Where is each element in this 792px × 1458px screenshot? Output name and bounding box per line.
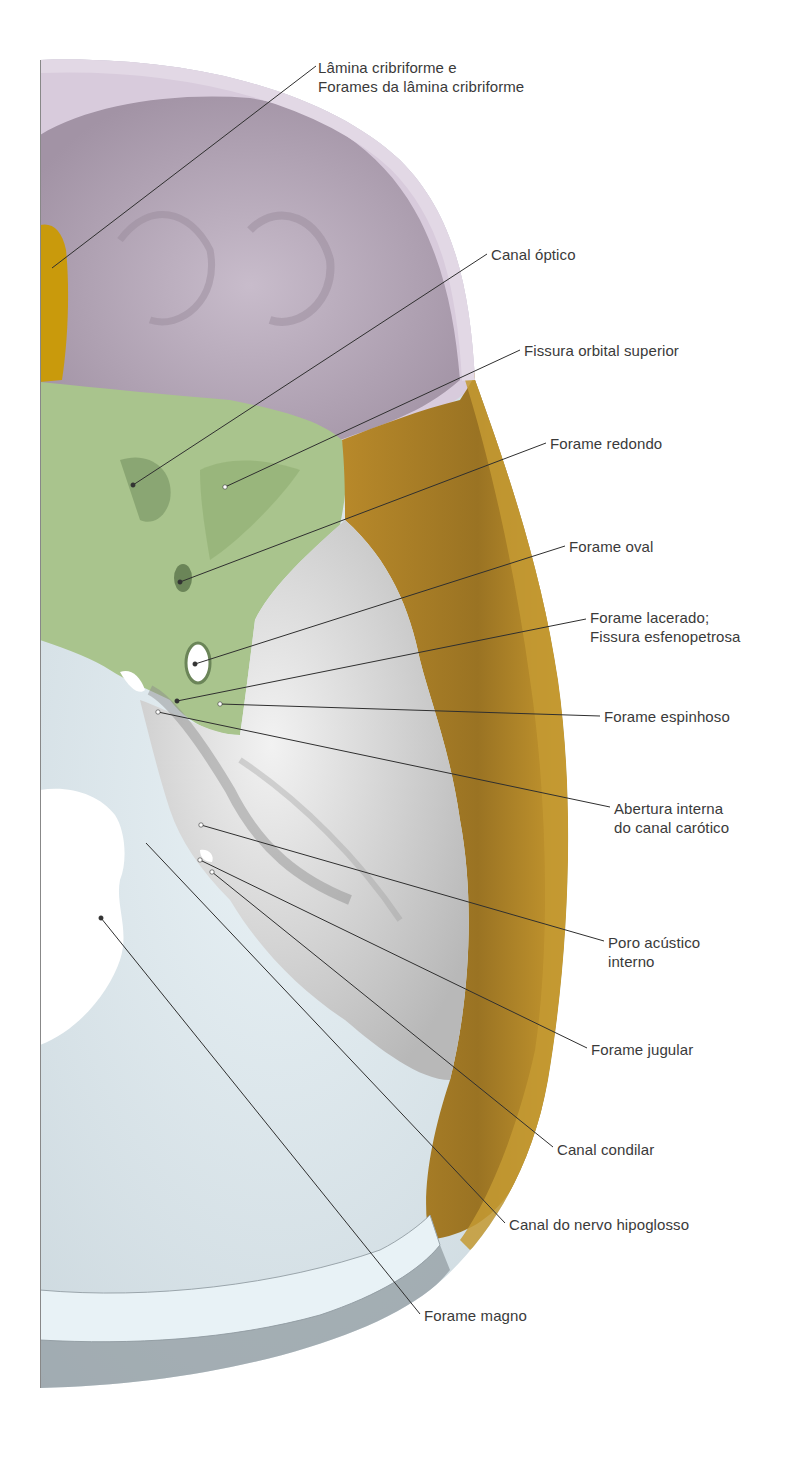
label-poro-acustico-interno: Poro acústicointerno: [608, 933, 700, 971]
label-text: Fissura orbital superior: [524, 341, 679, 360]
label-text: Forame redondo: [550, 434, 662, 453]
label-text: Fissura esfenopetrosa: [590, 627, 741, 646]
label-text: Abertura interna: [614, 799, 729, 818]
pointer-dot-pt-acustico: [199, 823, 203, 827]
pointer-dot-pt-forame-oval: [193, 662, 197, 666]
label-text: Poro acústico: [608, 933, 700, 952]
label-forame-oval: Forame oval: [569, 537, 653, 556]
label-text: Forame jugular: [591, 1040, 693, 1059]
label-forame-lacerado: Forame lacerado;Fissura esfenopetrosa: [590, 608, 741, 646]
cribriform-plate: [40, 224, 68, 382]
pointer-dot-pt-espinhoso: [218, 702, 222, 706]
label-text: Forame magno: [424, 1306, 527, 1325]
label-forame-magno: Forame magno: [424, 1306, 527, 1325]
label-canal-condilar: Canal condilar: [557, 1140, 654, 1159]
label-text: Canal óptico: [491, 245, 576, 264]
label-text: Forames da lâmina cribriforme: [318, 77, 524, 96]
pointer-dot-pt-jugular: [198, 858, 202, 862]
label-lamina-cribriforme: Lâmina cribriforme eForames da lâmina cr…: [318, 58, 524, 96]
label-text: Canal condilar: [557, 1140, 654, 1159]
pointer-dot-pt-magno: [99, 916, 103, 920]
label-text: Canal do nervo hipoglosso: [509, 1215, 689, 1234]
label-forame-redondo: Forame redondo: [550, 434, 662, 453]
label-text: Forame oval: [569, 537, 653, 556]
pointer-dot-pt-canal-optico: [131, 483, 135, 487]
label-canal-optico: Canal óptico: [491, 245, 576, 264]
label-fissura-orbital-superior: Fissura orbital superior: [524, 341, 679, 360]
label-text: do canal carótico: [614, 818, 729, 837]
label-text: interno: [608, 952, 700, 971]
pointer-dot-pt-condilar: [210, 870, 214, 874]
label-text: Lâmina cribriforme e: [318, 58, 524, 77]
pointer-dot-pt-fissura-orbital: [223, 485, 227, 489]
label-forame-jugular: Forame jugular: [591, 1040, 693, 1059]
label-forame-espinhoso: Forame espinhoso: [604, 707, 730, 726]
label-text: Forame espinhoso: [604, 707, 730, 726]
label-abertura-canal-carotico: Abertura internado canal carótico: [614, 799, 729, 837]
pointer-dot-pt-lacerado: [175, 699, 179, 703]
skull-base-illustration: [0, 0, 792, 1458]
label-canal-nervo-hipoglosso: Canal do nervo hipoglosso: [509, 1215, 689, 1234]
label-text: Forame lacerado;: [590, 608, 741, 627]
pointer-dot-pt-carotico: [156, 710, 160, 714]
skull-regions: [0, 0, 792, 1458]
pointer-dot-pt-forame-redondo: [178, 580, 182, 584]
